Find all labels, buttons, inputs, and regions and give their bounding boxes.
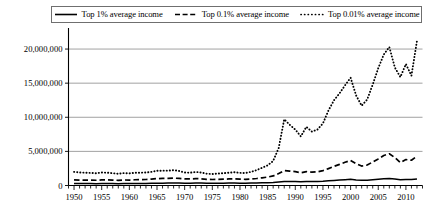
svg-text:2005: 2005 (370, 192, 387, 202)
chart-axes (69, 28, 423, 186)
chart-series (74, 41, 417, 184)
svg-text:1970: 1970 (176, 192, 193, 202)
chart-canvas: 05,000,00010,000,00015,000,00020,000,000… (0, 0, 434, 223)
y-axis-tick-labels: 05,000,00010,000,00015,000,00020,000,000 (24, 44, 63, 190)
chart-plot-area: 05,000,00010,000,00015,000,00020,000,000… (0, 0, 434, 223)
x-axis-tick-labels: 1950195519601965197019751980198519901995… (65, 192, 414, 202)
svg-text:1960: 1960 (121, 192, 138, 202)
x-axis-ticks (69, 186, 423, 191)
svg-text:1950: 1950 (65, 192, 82, 202)
series-line-2 (74, 41, 417, 174)
svg-text:2010: 2010 (397, 192, 414, 202)
series-line-1 (74, 154, 417, 181)
income-chart-figure: Top 1% average income Top 0.1% average i… (0, 0, 434, 223)
svg-text:2000: 2000 (342, 192, 359, 202)
svg-text:1975: 1975 (204, 192, 221, 202)
svg-text:15,000,000: 15,000,000 (24, 78, 63, 88)
svg-text:1990: 1990 (287, 192, 304, 202)
svg-text:1985: 1985 (259, 192, 276, 202)
svg-text:10,000,000: 10,000,000 (24, 112, 63, 122)
svg-text:1995: 1995 (314, 192, 331, 202)
svg-text:1980: 1980 (231, 192, 248, 202)
svg-text:20,000,000: 20,000,000 (24, 44, 63, 54)
svg-text:1965: 1965 (148, 192, 165, 202)
svg-text:5,000,000: 5,000,000 (28, 146, 62, 156)
svg-text:1955: 1955 (93, 192, 110, 202)
svg-text:0: 0 (58, 181, 62, 191)
chart-gridlines (69, 49, 423, 151)
